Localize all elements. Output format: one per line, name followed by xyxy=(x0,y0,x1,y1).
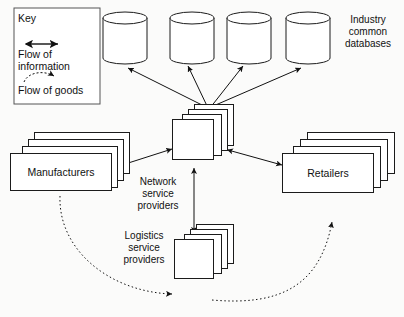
nsp-to-database-2-arrow xyxy=(188,66,208,108)
manufacturers-label: Manufacturers xyxy=(11,166,111,178)
key-item-goods-label: Flow of goods xyxy=(18,84,83,96)
nsp-to-database-3-arrow xyxy=(210,66,243,108)
retailers-label: Retailers xyxy=(283,167,373,179)
network-service-providers-label: Network service providers xyxy=(112,176,204,212)
retailers-stack-front[interactable]: Retailers xyxy=(282,153,374,193)
nsp-to-database-4-arrow xyxy=(211,68,301,107)
key-item-information-label: Flow of information xyxy=(18,48,70,72)
nsp-stack-front[interactable] xyxy=(172,119,214,160)
nsp-to-retailers-arrow xyxy=(228,150,282,165)
database-3 xyxy=(227,12,271,64)
industry-common-databases-caption: Industry common databases xyxy=(336,14,400,50)
logistics-service-providers-label: Logistics service providers xyxy=(106,230,182,266)
database-1 xyxy=(103,12,147,64)
key-title: Key xyxy=(18,12,36,24)
database-2 xyxy=(170,12,214,64)
diagram-canvas: Key Flow of information Flow of goods In… xyxy=(0,0,404,317)
manufacturers-stack-front[interactable]: Manufacturers xyxy=(10,153,112,191)
database-4 xyxy=(286,12,330,64)
nsp-to-database-1-arrow xyxy=(128,68,208,108)
